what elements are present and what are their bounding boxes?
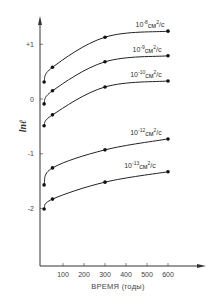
data-point <box>103 148 107 152</box>
x-tick-label: 300 <box>99 271 111 278</box>
data-point <box>51 65 55 69</box>
x-tick-label: 200 <box>78 271 90 278</box>
x-axis-title: ВРЕМЯ (годы) <box>91 282 145 291</box>
data-point <box>166 79 170 83</box>
series-label: 10-12см2/с <box>130 127 162 137</box>
data-point <box>103 180 107 184</box>
y-tick-label: -1 <box>28 150 34 157</box>
y-tick-label: 0 <box>30 96 34 103</box>
data-point <box>103 85 107 89</box>
data-point <box>166 54 170 58</box>
data-point <box>42 183 46 187</box>
data-point <box>103 60 107 64</box>
data-point <box>51 113 55 117</box>
data-point <box>42 80 46 84</box>
y-axis-title: lnℓ <box>17 120 28 133</box>
y-tick-label: -2 <box>28 205 34 212</box>
data-point <box>166 137 170 141</box>
series-label: 10-8см2/с <box>136 19 165 29</box>
series-label: 10-13см2/с <box>124 160 156 170</box>
y-tick-label: +1 <box>26 41 34 48</box>
series-curves <box>42 29 170 210</box>
data-point <box>166 29 170 33</box>
data-point <box>42 124 46 128</box>
x-tick-label: 100 <box>57 271 69 278</box>
data-point <box>42 207 46 211</box>
data-point <box>42 102 46 106</box>
series-label: 10-10см2/с <box>130 69 162 79</box>
x-tick-label: 400 <box>120 271 132 278</box>
diffusion-chart: 100200300400500600+10-1-2 10-8см2/с10-9с… <box>0 0 214 307</box>
data-point <box>166 170 170 174</box>
series-label: 10-9см2/с <box>133 44 162 54</box>
x-tick-label: 500 <box>141 271 153 278</box>
data-point <box>103 35 107 39</box>
data-point <box>51 166 55 170</box>
series-curve <box>44 172 168 209</box>
x-axis-arrow-icon <box>197 264 206 268</box>
series-labels: 10-8см2/с10-9см2/с10-10см2/с10-12см2/с10… <box>124 19 165 170</box>
data-point <box>51 89 55 93</box>
data-point <box>51 197 55 201</box>
y-axis-arrow-icon <box>38 16 42 25</box>
x-tick-label: 600 <box>162 271 174 278</box>
